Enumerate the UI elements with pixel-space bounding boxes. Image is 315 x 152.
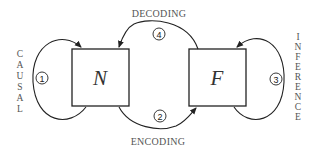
svg-text:L: L bbox=[17, 104, 23, 114]
edge-4-number: 4 bbox=[156, 30, 161, 40]
label-inference-vertical: I N F E R E N C E bbox=[295, 32, 302, 122]
svg-text:U: U bbox=[17, 71, 24, 81]
edge-3-number: 3 bbox=[273, 75, 278, 85]
svg-text:A: A bbox=[17, 93, 24, 103]
svg-text:C: C bbox=[295, 102, 301, 112]
node-N-label: N bbox=[92, 66, 108, 90]
svg-text:N: N bbox=[295, 92, 302, 102]
node-F: F bbox=[189, 49, 246, 106]
diagram-canvas: N F 1 4 2 3 DECODING ENCODING C A U S A … bbox=[0, 0, 315, 152]
edge-inference: 3 bbox=[234, 39, 284, 120]
label-decoding: DECODING bbox=[132, 8, 187, 19]
label-encoding: ENCODING bbox=[131, 136, 186, 147]
edge-decoding: 4 bbox=[119, 21, 198, 49]
edge-causal: 1 bbox=[33, 40, 86, 120]
svg-text:A: A bbox=[17, 60, 24, 70]
edge-2-number: 2 bbox=[157, 112, 162, 122]
node-F-label: F bbox=[210, 66, 224, 90]
edge-1-number: 1 bbox=[39, 74, 44, 84]
svg-text:E: E bbox=[295, 62, 301, 72]
edge-encoding: 2 bbox=[119, 107, 196, 129]
svg-text:I: I bbox=[296, 32, 299, 42]
svg-text:R: R bbox=[295, 72, 302, 82]
node-N: N bbox=[72, 49, 129, 106]
svg-text:N: N bbox=[295, 42, 302, 52]
svg-text:E: E bbox=[295, 112, 301, 122]
svg-text:E: E bbox=[295, 82, 301, 92]
label-causal-vertical: C A U S A L bbox=[17, 49, 24, 114]
svg-text:F: F bbox=[295, 52, 300, 62]
svg-text:S: S bbox=[17, 82, 22, 92]
svg-text:C: C bbox=[17, 49, 23, 59]
